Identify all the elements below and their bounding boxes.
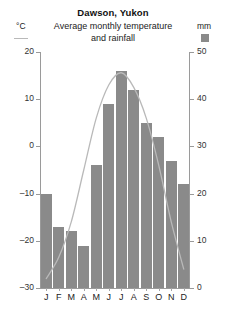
right-tick-label-30: 30 bbox=[197, 140, 206, 150]
left-tick-20 bbox=[36, 52, 40, 53]
left-tick-0 bbox=[36, 146, 40, 147]
temperature-line-path bbox=[46, 73, 184, 279]
chart-subtitle: Average monthly temperature and rainfall bbox=[28, 21, 198, 44]
right-axis-unit-label: mm bbox=[197, 21, 211, 31]
x-axis-label-6: J bbox=[115, 292, 127, 302]
x-axis-label-4: M bbox=[90, 292, 102, 302]
x-axis-label-9: O bbox=[153, 292, 165, 302]
rainfall-legend-swatch-icon bbox=[201, 34, 209, 42]
page-title: Dawson, Yukon bbox=[0, 7, 226, 18]
x-axis-label-1: F bbox=[53, 292, 65, 302]
x-tick-2 bbox=[71, 288, 72, 291]
temperature-legend-line-icon bbox=[14, 38, 28, 39]
plot-area: 20100–10–20–30 50403020100 JFMAMJJASOND bbox=[40, 52, 190, 288]
left-tick-label-0: 0 bbox=[29, 140, 34, 150]
right-tick-label-0: 0 bbox=[197, 282, 202, 292]
left-axis-unit-label: °C bbox=[16, 21, 26, 31]
left-tick--30 bbox=[36, 288, 40, 289]
x-axis-label-10: N bbox=[165, 292, 177, 302]
left-tick--20 bbox=[36, 241, 40, 242]
left-tick-10 bbox=[36, 99, 40, 100]
x-tick-6 bbox=[121, 288, 122, 291]
right-tick-label-40: 40 bbox=[197, 93, 206, 103]
x-tick-7 bbox=[134, 288, 135, 291]
x-tick-11 bbox=[184, 288, 185, 291]
x-axis-label-11: D bbox=[178, 292, 190, 302]
right-tick-20 bbox=[190, 194, 194, 195]
right-tick-50 bbox=[190, 52, 194, 53]
x-axis-label-5: J bbox=[103, 292, 115, 302]
x-tick-10 bbox=[171, 288, 172, 291]
x-tick-3 bbox=[84, 288, 85, 291]
left-tick-label--20: –20 bbox=[20, 235, 34, 245]
x-tick-9 bbox=[159, 288, 160, 291]
right-tick-label-10: 10 bbox=[197, 235, 206, 245]
x-tick-0 bbox=[46, 288, 47, 291]
subtitle-line-2: and rainfall bbox=[91, 33, 135, 43]
climate-chart: Dawson, Yukon Average monthly temperatur… bbox=[0, 0, 226, 324]
x-tick-8 bbox=[146, 288, 147, 291]
baseline-axis bbox=[40, 288, 190, 289]
left-tick-label--10: –10 bbox=[20, 188, 34, 198]
x-tick-1 bbox=[59, 288, 60, 291]
x-axis-label-2: M bbox=[65, 292, 77, 302]
right-tick-10 bbox=[190, 241, 194, 242]
right-tick-label-50: 50 bbox=[197, 46, 206, 56]
x-axis-label-0: J bbox=[40, 292, 52, 302]
x-axis-label-8: S bbox=[140, 292, 152, 302]
right-tick-40 bbox=[190, 99, 194, 100]
right-tick-label-20: 20 bbox=[197, 188, 206, 198]
x-axis-label-3: A bbox=[78, 292, 90, 302]
left-tick-label--30: –30 bbox=[20, 282, 34, 292]
left-tick-label-20: 20 bbox=[25, 46, 34, 56]
x-tick-5 bbox=[109, 288, 110, 291]
x-axis-label-7: A bbox=[128, 292, 140, 302]
left-tick-label-10: 10 bbox=[25, 93, 34, 103]
right-tick-0 bbox=[190, 288, 194, 289]
subtitle-line-1: Average monthly temperature bbox=[54, 21, 172, 31]
left-tick--10 bbox=[36, 194, 40, 195]
x-tick-4 bbox=[96, 288, 97, 291]
temperature-curve bbox=[40, 52, 190, 288]
right-tick-30 bbox=[190, 146, 194, 147]
